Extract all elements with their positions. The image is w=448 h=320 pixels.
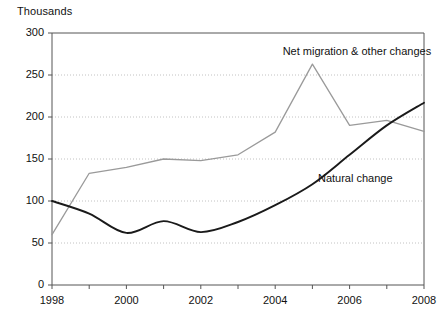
y-tick-label-50: 50 [10,236,44,248]
x-tick-label-2000: 2000 [106,294,146,306]
y-tick-label-250: 250 [10,68,44,80]
x-tick-label-2002: 2002 [181,294,221,306]
line-chart: Thousands 050100150200250300199820002002… [0,0,448,320]
y-tick-label-200: 200 [10,110,44,122]
y-tick-label-150: 150 [10,152,44,164]
x-tick-label-2008: 2008 [404,294,444,306]
y-tick-label-100: 100 [10,194,44,206]
x-tick-label-1998: 1998 [32,294,72,306]
y-tick-label-0: 0 [10,278,44,290]
series-label-natural-change: Natural change [318,172,393,184]
series-label-net-migration: Net migration & other changes [283,45,432,57]
x-tick-label-2004: 2004 [255,294,295,306]
x-tick-label-2006: 2006 [330,294,370,306]
y-tick-label-300: 300 [10,26,44,38]
series-line-net-migration [52,64,424,235]
